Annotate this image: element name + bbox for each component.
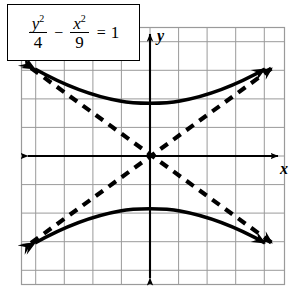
variable-x: x (73, 13, 81, 32)
numerator-y-squared: y2 (29, 14, 48, 34)
equation-expression: y2 4 − x2 9 = 1 (28, 14, 120, 52)
fraction-x-squared-over-9: x2 9 (70, 14, 89, 52)
hyperbola-figure: x y y2 4 − x2 9 = 1 (0, 0, 306, 289)
y-axis-label: y (157, 27, 164, 45)
x-axis-label: x (280, 160, 288, 178)
exponent-two-x: 2 (81, 13, 86, 24)
numerator-x-squared: x2 (70, 14, 89, 34)
right-hand-side: 1 (111, 24, 120, 41)
fraction-y-squared-over-4: y2 4 (29, 14, 48, 52)
exponent-two-y: 2 (39, 13, 44, 24)
denominator-nine: 9 (72, 33, 87, 51)
minus-operator: − (54, 25, 63, 41)
equation-box: y2 4 − x2 9 = 1 (7, 4, 140, 61)
equals-sign: = (97, 25, 106, 41)
denominator-four: 4 (31, 33, 46, 51)
